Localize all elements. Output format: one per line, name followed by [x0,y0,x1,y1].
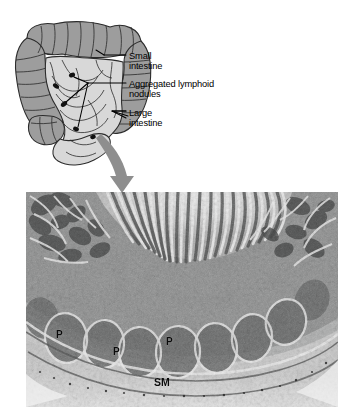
micrograph-image [0,0,357,419]
figure-panel: Small intestine Aggregated lymphoid nodu… [0,0,357,419]
micrograph-label-sm: SM [154,377,170,387]
micrograph-label-p-2: P [113,347,120,357]
micrograph-label-p-1: P [56,330,63,340]
micrograph-label-p-3: P [166,337,173,347]
